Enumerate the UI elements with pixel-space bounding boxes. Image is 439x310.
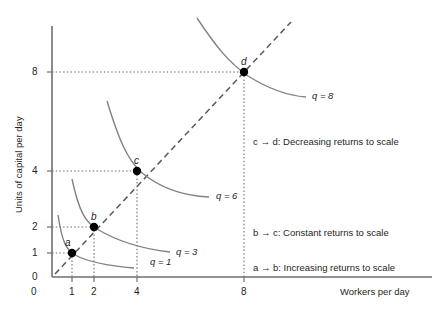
y-tick-label-2: 2 bbox=[32, 222, 38, 232]
y-tick-label-0: 0 bbox=[32, 272, 38, 282]
x-tick-label-0: 0 bbox=[31, 287, 37, 297]
annotation-increasing-returns: a → b: Increasing returns to scale bbox=[253, 263, 395, 273]
isoquant-label-q3: q = 3 bbox=[176, 247, 197, 257]
x-axis-title: Workers per day bbox=[340, 287, 410, 297]
data-point-c bbox=[133, 167, 141, 175]
data-point-a bbox=[68, 249, 76, 257]
x-tick-label-4: 4 bbox=[134, 287, 140, 297]
y-tick-label-1: 1 bbox=[32, 248, 38, 258]
y-axis-title: Units of capital per day bbox=[14, 116, 24, 213]
annotation-constant-returns: b → c: Constant returns to scale bbox=[253, 228, 389, 238]
isoquant-curve-q6 bbox=[107, 101, 209, 197]
y-tick-label-8: 8 bbox=[32, 67, 38, 77]
point-label-c: c bbox=[134, 156, 139, 166]
isoquant-label-q6: q = 6 bbox=[216, 191, 237, 201]
isoquant-label-q1: q = 1 bbox=[150, 257, 171, 267]
point-label-b: b bbox=[91, 212, 97, 222]
point-label-d: d bbox=[241, 57, 247, 67]
point-label-a: a bbox=[65, 238, 71, 248]
data-point-b bbox=[90, 223, 98, 231]
isoquant-label-q8: q = 8 bbox=[312, 91, 333, 101]
y-tick-label-4: 4 bbox=[32, 166, 38, 176]
x-tick-label-1: 1 bbox=[69, 287, 75, 297]
x-tick-label-8: 8 bbox=[241, 287, 247, 297]
isoquant-curve-q8 bbox=[197, 18, 306, 97]
annotation-decreasing-returns: c → d: Decreasing returns to scale bbox=[253, 137, 399, 147]
isoquant-returns-to-scale-chart: Units of capital per day Workers per day… bbox=[0, 0, 439, 310]
x-tick-label-2: 2 bbox=[91, 287, 97, 297]
data-point-d bbox=[240, 68, 248, 76]
